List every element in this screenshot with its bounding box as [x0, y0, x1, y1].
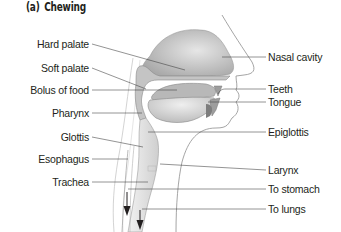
label-pharynx: Pharynx	[52, 107, 89, 119]
esophagus-shape	[122, 150, 128, 232]
label-soft-palate: Soft palate	[41, 62, 89, 74]
larynx-trachea-shape	[128, 118, 159, 232]
label-esophagus: Esophagus	[38, 153, 89, 165]
tongue-shape	[148, 97, 215, 122]
nasal-cavity-shape	[142, 30, 234, 76]
label-bolus-of-food: Bolus of food	[30, 84, 89, 96]
label-to-stomach: To stomach	[268, 183, 320, 195]
label-nasal-cavity: Nasal cavity	[268, 51, 322, 63]
label-to-lungs: To lungs	[268, 203, 306, 215]
label-trachea: Trachea	[52, 176, 89, 188]
label-glottis: Glottis	[61, 131, 89, 143]
label-hard-palate: Hard palate	[37, 38, 89, 50]
label-tongue: Tongue	[268, 96, 301, 108]
label-teeth: Teeth	[268, 83, 293, 95]
label-larynx: Larynx	[268, 164, 298, 176]
label-epiglottis: Epiglottis	[268, 126, 309, 138]
